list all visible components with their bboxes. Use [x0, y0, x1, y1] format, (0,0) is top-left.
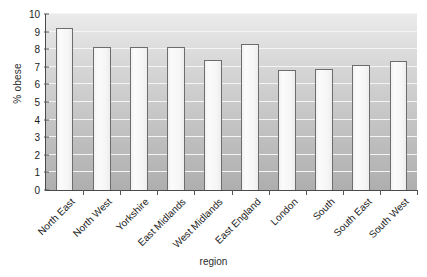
- bar: [167, 47, 185, 190]
- x-tick-mark: [83, 190, 84, 195]
- y-tick-label: 6: [16, 79, 40, 90]
- x-tick-mark: [343, 190, 344, 195]
- y-tick-mark: [44, 137, 49, 138]
- y-tick-label: 3: [16, 132, 40, 143]
- bar: [130, 47, 148, 190]
- y-tick-label: 2: [16, 149, 40, 160]
- x-tick-mark: [232, 190, 233, 195]
- x-tick-mark: [120, 190, 121, 195]
- bar: [56, 28, 74, 190]
- y-tick-mark: [44, 66, 49, 67]
- y-tick-mark: [44, 119, 49, 120]
- bar-slot: [232, 14, 269, 190]
- bar-slot: [306, 14, 343, 190]
- bar: [241, 44, 259, 190]
- y-tick-mark: [44, 172, 49, 173]
- bar-slot: [269, 14, 306, 190]
- y-tick-label: 4: [16, 114, 40, 125]
- bar-chart: % obese 109876543210 North EastNorth Wes…: [0, 0, 427, 277]
- bar: [278, 70, 296, 190]
- y-tick-label: 5: [16, 97, 40, 108]
- y-tick-mark: [44, 84, 49, 85]
- y-tick-label: 8: [16, 44, 40, 55]
- y-tick-mark: [44, 154, 49, 155]
- bar: [315, 69, 333, 190]
- y-tick-mark: [44, 31, 49, 32]
- bar-series: [46, 14, 417, 190]
- bar-slot: [343, 14, 380, 190]
- bar: [390, 61, 408, 190]
- bar-slot: [120, 14, 157, 190]
- x-axis-title: region: [0, 256, 427, 267]
- y-tick-label: 1: [16, 167, 40, 178]
- bar-slot: [194, 14, 231, 190]
- x-tick-mark: [194, 190, 195, 195]
- x-tick-mark: [306, 190, 307, 195]
- x-tick-mark: [269, 190, 270, 195]
- x-axis-labels: North EastNorth WestYorkshireEast Midlan…: [46, 196, 417, 254]
- y-tick-mark: [44, 190, 49, 191]
- bar-slot: [380, 14, 417, 190]
- y-tick-label: 0: [16, 185, 40, 196]
- y-tick-label: 10: [16, 9, 40, 20]
- bar-slot: [46, 14, 83, 190]
- bar-slot: [157, 14, 194, 190]
- x-tick-label: North West: [71, 196, 114, 239]
- x-tick-mark: [380, 190, 381, 195]
- y-tick-mark: [44, 14, 49, 15]
- x-tick-mark: [417, 190, 418, 195]
- bar: [204, 60, 222, 190]
- x-tick-mark: [157, 190, 158, 195]
- y-tick-label: 7: [16, 61, 40, 72]
- y-tick-mark: [44, 49, 49, 50]
- y-axis-ticks: 109876543210: [16, 14, 40, 190]
- bar: [352, 65, 370, 190]
- x-tick-label: London: [268, 196, 299, 227]
- y-tick-mark: [44, 102, 49, 103]
- y-tick-label: 9: [16, 26, 40, 37]
- x-tick-label: South: [310, 196, 336, 222]
- bar: [93, 47, 111, 190]
- x-tick-label: Yorkshire: [114, 196, 151, 233]
- bar-slot: [83, 14, 120, 190]
